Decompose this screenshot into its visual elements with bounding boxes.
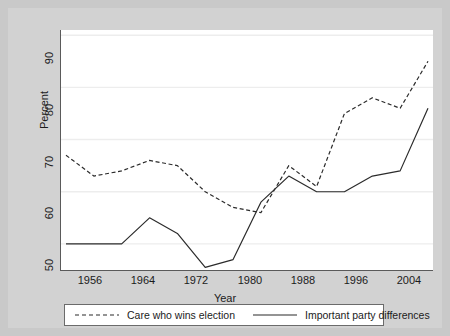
x-tick-label-1956: 1956: [68, 274, 112, 286]
x-tick-label-1988: 1988: [281, 274, 325, 286]
solid-line-icon: [253, 310, 297, 320]
x-tick-label-2004: 2004: [387, 274, 431, 286]
legend-entry-party: Important party differences: [235, 305, 430, 325]
x-tick-label-1964: 1964: [121, 274, 165, 286]
x-tick-label-1996: 1996: [334, 274, 378, 286]
x-tick-label-1972: 1972: [174, 274, 218, 286]
y-tick-label-90: 90: [43, 41, 55, 75]
legend-entry-care: Care who wins election: [65, 305, 235, 325]
chart-legend: Care who wins election Important party d…: [64, 304, 384, 326]
dashed-line-icon: [75, 310, 119, 320]
plot-area: [60, 30, 433, 271]
y-tick-label-60: 60: [43, 196, 55, 230]
x-axis-title: Year: [8, 292, 442, 304]
series-line-care-who-wins-election: [66, 61, 428, 212]
y-tick-label-70: 70: [43, 145, 55, 179]
chart-screenshot: Percent 90 80 70 60 50 1956 1964 1972 19…: [0, 0, 450, 336]
y-tick-label-80: 80: [43, 93, 55, 127]
plot-svg: [61, 30, 433, 270]
legend-label-party: Important party differences: [305, 309, 430, 321]
x-tick-label-1980: 1980: [228, 274, 272, 286]
legend-label-care: Care who wins election: [127, 309, 235, 321]
figure-canvas: Percent 90 80 70 60 50 1956 1964 1972 19…: [8, 8, 442, 328]
y-tick-label-50: 50: [43, 248, 55, 282]
